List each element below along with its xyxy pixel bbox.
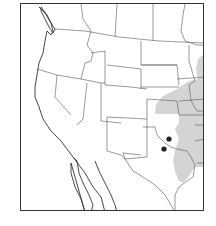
gulf-of-california-coast — [95, 161, 117, 211]
distribution-range — [155, 53, 204, 183]
locality-dot — [166, 136, 171, 141]
range-map — [21, 4, 204, 211]
pacific-coastline — [35, 7, 105, 211]
map-frame — [20, 3, 204, 211]
baja-california — [71, 157, 93, 211]
locality-dot — [161, 146, 166, 151]
